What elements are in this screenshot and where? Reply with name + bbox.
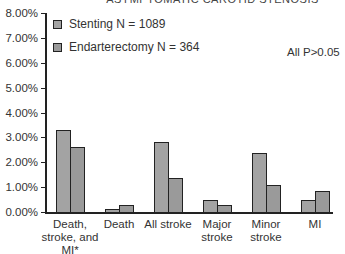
- y-tick: [41, 63, 46, 64]
- y-tick-label: 2.00%: [0, 156, 38, 168]
- bar-stenting: [154, 142, 169, 213]
- y-tick: [41, 187, 46, 188]
- bar-endarterectomy: [217, 205, 232, 213]
- y-tick: [41, 88, 46, 89]
- legend-swatch-endarterectomy: [53, 43, 62, 52]
- p-value-annotation: All P>0.05: [287, 46, 340, 58]
- x-category-label: MI: [285, 218, 345, 231]
- bar-stenting: [301, 200, 316, 213]
- bar-endarterectomy: [315, 191, 330, 213]
- y-tick-label: 7.00%: [0, 32, 38, 44]
- bar-endarterectomy: [168, 178, 183, 213]
- chart-title: ASYMPTOMATIC CAROTID STENOSIS: [80, 0, 345, 5]
- legend-label-endarterectomy: Endarterectomy N = 364: [69, 40, 199, 54]
- y-tick-label: 1.00%: [0, 181, 38, 193]
- y-tick: [41, 113, 46, 114]
- bar-stenting: [203, 200, 218, 213]
- x-axis: [45, 212, 333, 214]
- legend-label-stenting: Stenting N = 1089: [69, 17, 165, 31]
- bar-stenting: [56, 130, 71, 213]
- y-tick: [41, 162, 46, 163]
- bar-endarterectomy: [266, 185, 281, 213]
- y-tick: [41, 137, 46, 138]
- y-tick-label: 0.00%: [0, 206, 38, 218]
- y-tick-label: 8.00%: [0, 7, 38, 19]
- y-tick-label: 6.00%: [0, 57, 38, 69]
- y-tick-label: 3.00%: [0, 131, 38, 143]
- legend-swatch-stenting: [53, 20, 62, 29]
- bar-stenting: [252, 153, 267, 213]
- y-tick: [41, 38, 46, 39]
- y-tick: [41, 212, 46, 213]
- legend-item-endarterectomy: Endarterectomy N = 364: [53, 40, 199, 54]
- y-tick: [41, 13, 46, 14]
- bar-endarterectomy: [70, 147, 85, 213]
- y-tick-label: 4.00%: [0, 107, 38, 119]
- y-tick-label: 5.00%: [0, 82, 38, 94]
- legend-item-stenting: Stenting N = 1089: [53, 17, 165, 31]
- bar-endarterectomy: [119, 205, 134, 213]
- bar-stenting: [105, 209, 120, 213]
